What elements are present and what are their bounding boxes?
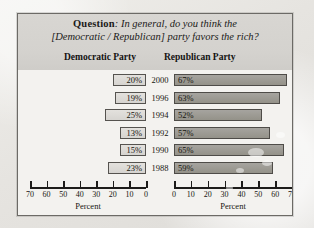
right-bar-track: 67% — [174, 74, 292, 86]
figure-panel: Question: In general, do you think the [… — [17, 13, 293, 216]
right-bar-track: 59% — [174, 162, 292, 174]
bar-value-label: 59% — [178, 163, 194, 173]
bar-republican[interactable]: 63% — [174, 92, 280, 104]
axis-tick — [129, 181, 131, 188]
chart-plot-area: 20%200067%19%199663%25%199452%13%199257%… — [18, 69, 292, 215]
axis-tick-label: 30 — [221, 190, 229, 199]
left-bar-track: 20% — [30, 74, 146, 86]
axis-tick-label: 20 — [204, 190, 212, 199]
axis-tick — [208, 181, 210, 188]
year-label: 2000 — [146, 74, 174, 86]
right-bar-track: 57% — [174, 127, 292, 139]
bar-value-label: 13% — [126, 128, 142, 138]
year-label: 1996 — [146, 92, 174, 104]
bar-democratic[interactable]: 19% — [115, 92, 146, 104]
bar-value-label: 23% — [126, 163, 142, 173]
axis-tick — [225, 181, 227, 188]
right-bar-track: 65% — [174, 144, 292, 156]
bar-democratic[interactable]: 15% — [120, 144, 146, 156]
axis-tick — [275, 181, 277, 188]
question-line-2: [Democratic / Republican] party favors t… — [18, 30, 292, 43]
chart-row: 25%199452% — [18, 109, 292, 123]
figure-header-band: Question: In general, do you think the [… — [18, 14, 292, 70]
axis-tick — [30, 181, 32, 188]
right-bar-track: 52% — [174, 109, 292, 121]
bar-value-label: 52% — [178, 110, 194, 120]
axis-tick-label: 10 — [187, 190, 195, 199]
bar-republican[interactable]: 65% — [174, 144, 284, 156]
axis-tick-label: 20 — [109, 190, 117, 199]
axis-tick — [96, 181, 98, 188]
bar-value-label: 67% — [178, 75, 194, 85]
axis-tick-label: 40 — [76, 190, 84, 199]
bar-value-label: 65% — [178, 145, 194, 155]
year-label: 1992 — [146, 127, 174, 139]
axis-tick — [146, 181, 148, 188]
axis-tick-label: 30 — [92, 190, 100, 199]
bar-republican[interactable]: 67% — [174, 74, 287, 86]
axis-tick — [113, 181, 115, 188]
year-label: 1988 — [146, 162, 174, 174]
bar-value-label: 57% — [178, 128, 194, 138]
axis-tick — [80, 181, 82, 188]
bar-value-label: 19% — [126, 93, 142, 103]
party-headers: Democratic Party Republican Party — [18, 52, 292, 66]
left-axis-caption: Percent — [30, 201, 146, 211]
bar-democratic[interactable]: 20% — [113, 74, 146, 86]
axis-tick-label: 60 — [43, 190, 51, 199]
axis-tick — [47, 181, 49, 188]
right-bar-track: 63% — [174, 92, 292, 104]
question-line-1: Question: In general, do you think the — [18, 17, 292, 30]
question-text-1: : In general, do you think the — [115, 18, 237, 29]
axis-tick — [174, 181, 176, 188]
chart-row: 20%200067% — [18, 74, 292, 88]
right-axis-tick-labels: 010203040506070 — [166, 190, 293, 201]
axis-tick-label: 70 — [288, 190, 293, 199]
axis-tick-label: 60 — [271, 190, 279, 199]
question-label: Question — [73, 18, 115, 29]
year-label: 1990 — [146, 144, 174, 156]
bar-republican[interactable]: 52% — [174, 109, 262, 121]
bar-democratic[interactable]: 25% — [105, 109, 146, 121]
axis-tick-label: 50 — [59, 190, 67, 199]
left-axis: 706050403020100 Percent — [30, 181, 146, 199]
left-bar-track: 15% — [30, 144, 146, 156]
left-bar-track: 13% — [30, 127, 146, 139]
bar-democratic[interactable]: 23% — [108, 162, 146, 174]
header-republican-party: Republican Party — [164, 52, 284, 62]
axis-tick — [292, 181, 293, 188]
axis-tick-label: 70 — [26, 190, 34, 199]
axis-tick-label: 40 — [237, 190, 245, 199]
chart-row: 23%198859% — [18, 162, 292, 176]
chart-row: 13%199257% — [18, 127, 292, 141]
axis-tick-label: 0 — [144, 190, 148, 199]
axis-tick — [63, 181, 65, 188]
chart-row: 15%199065% — [18, 144, 292, 158]
bar-value-label: 15% — [126, 145, 142, 155]
left-bar-track: 19% — [30, 92, 146, 104]
axis-tick-label: 50 — [254, 190, 262, 199]
bar-democratic[interactable]: 13% — [120, 127, 146, 139]
axis-tick — [258, 181, 260, 188]
year-label: 1994 — [146, 109, 174, 121]
bar-value-label: 25% — [126, 110, 142, 120]
right-axis-caption: Percent — [174, 201, 292, 211]
bar-republican[interactable]: 59% — [174, 162, 273, 174]
bar-value-label: 63% — [178, 93, 194, 103]
question-block: Question: In general, do you think the [… — [18, 17, 292, 43]
chart-row: 19%199663% — [18, 92, 292, 106]
left-bar-track: 25% — [30, 109, 146, 121]
axis-tick — [191, 181, 193, 188]
bar-republican[interactable]: 57% — [174, 127, 270, 139]
axis-tick-label: 10 — [125, 190, 133, 199]
bar-value-label: 20% — [126, 75, 142, 85]
header-democratic-party: Democratic Party — [40, 52, 160, 62]
left-bar-track: 23% — [30, 162, 146, 174]
axis-tick — [241, 181, 243, 188]
axis-tick-label: 0 — [172, 190, 176, 199]
right-axis: 010203040506070 Percent — [174, 181, 292, 199]
left-axis-tick-labels: 706050403020100 — [22, 190, 154, 201]
